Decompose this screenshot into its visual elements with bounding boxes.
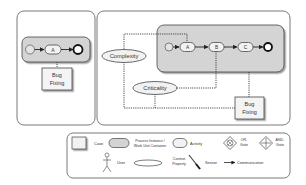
right-bug-fixing-user-box[interactable]: Bug Fixing	[235, 97, 264, 119]
svg-text:Sensor: Sensor	[205, 161, 218, 165]
svg-text:Bug: Bug	[245, 101, 255, 107]
context-criticality[interactable]: Criticality	[133, 82, 177, 95]
right-activity-b[interactable]: B	[209, 43, 224, 52]
svg-text:Gate: Gate	[276, 143, 284, 147]
end-event-icon	[74, 45, 83, 54]
svg-text:Complexity: Complexity	[110, 53, 139, 59]
svg-text:Work Unit Container: Work Unit Container	[134, 144, 167, 148]
svg-text:Fixing: Fixing	[50, 80, 65, 86]
left-bug-fixing-user-box[interactable]: Bug Fixing	[42, 68, 72, 90]
svg-text:User: User	[117, 161, 126, 165]
case-icon	[72, 137, 86, 149]
svg-text:Context: Context	[173, 157, 185, 161]
svg-text:Bug: Bug	[52, 72, 62, 78]
svg-text:Activity: Activity	[190, 142, 202, 146]
svg-text:Process Instance /: Process Instance /	[135, 139, 165, 143]
svg-text:Fixing: Fixing	[242, 109, 257, 115]
left-activity-a[interactable]: A	[45, 45, 61, 54]
legend-process-instance: Process Instance / Work Unit Container	[109, 139, 167, 149]
left-case-panel: A Bug Fixing	[17, 11, 95, 125]
diagram-canvas: A Bug Fixing A	[0, 0, 306, 185]
context-complexity[interactable]: Complexity	[102, 50, 146, 63]
legend: Case Process Instance / Work Unit Contai…	[67, 133, 290, 178]
process-instance-icon	[109, 139, 129, 148]
svg-text:B: B	[215, 45, 218, 50]
right-activity-a[interactable]: A	[180, 43, 195, 52]
svg-text:OR-: OR-	[241, 138, 248, 142]
svg-text:Case: Case	[94, 141, 104, 146]
svg-text:Gate: Gate	[240, 143, 248, 147]
svg-text:Communication: Communication	[237, 161, 263, 165]
context-property-icon	[134, 160, 162, 166]
start-event-icon	[26, 45, 35, 54]
activity-icon	[173, 139, 187, 148]
svg-text:Property: Property	[172, 162, 186, 166]
start-event-icon	[165, 43, 173, 51]
right-case-panel: A B C Complexity Criticality Bug Fixing	[97, 11, 290, 125]
svg-text:C: C	[244, 45, 248, 50]
svg-text:Criticality: Criticality	[143, 85, 167, 91]
right-activity-c[interactable]: C	[238, 43, 253, 52]
end-event-icon	[264, 43, 272, 51]
svg-text:AND-: AND-	[276, 138, 286, 142]
